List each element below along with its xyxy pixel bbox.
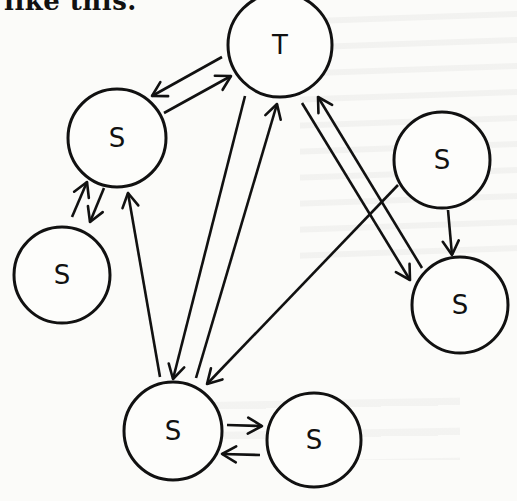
node-s2: S	[14, 227, 110, 323]
node-label: S	[54, 260, 71, 290]
edge-s1-to-s2	[88, 188, 104, 222]
edge-line	[302, 103, 410, 280]
edge-t-to-s1	[152, 57, 222, 96]
edge-line	[128, 193, 160, 377]
node-label: S	[452, 290, 469, 320]
node-label: S	[434, 145, 451, 175]
edge-line	[164, 76, 231, 113]
edge-line	[227, 425, 262, 426]
nodes-group: TSSSSSS	[14, 0, 508, 487]
node-label: S	[306, 425, 323, 455]
edge-t-to-s4	[302, 103, 410, 280]
node-label: T	[271, 30, 288, 60]
node-s1: S	[68, 89, 166, 187]
state-diagram: TSSSSSS	[0, 0, 517, 501]
edge-line	[222, 454, 260, 455]
node-label: S	[165, 416, 182, 446]
edge-s5-to-s6	[227, 418, 262, 434]
node-s5: S	[124, 382, 222, 480]
edge-s3-to-s5	[207, 185, 398, 384]
node-s6: S	[267, 393, 361, 487]
edge-t-to-s5	[169, 96, 245, 379]
edge-s6-to-s5	[222, 446, 260, 462]
edge-s1-to-t	[164, 76, 231, 113]
node-s4: S	[412, 257, 508, 353]
node-s3: S	[394, 112, 490, 208]
edge-s3-to-s4	[443, 210, 459, 255]
node-t: T	[228, 0, 332, 97]
edge-line	[152, 57, 222, 96]
edge-s5-to-s1	[123, 193, 160, 377]
edge-line	[207, 185, 398, 384]
edge-s2-to-s1	[72, 182, 89, 217]
node-label: S	[109, 123, 126, 153]
